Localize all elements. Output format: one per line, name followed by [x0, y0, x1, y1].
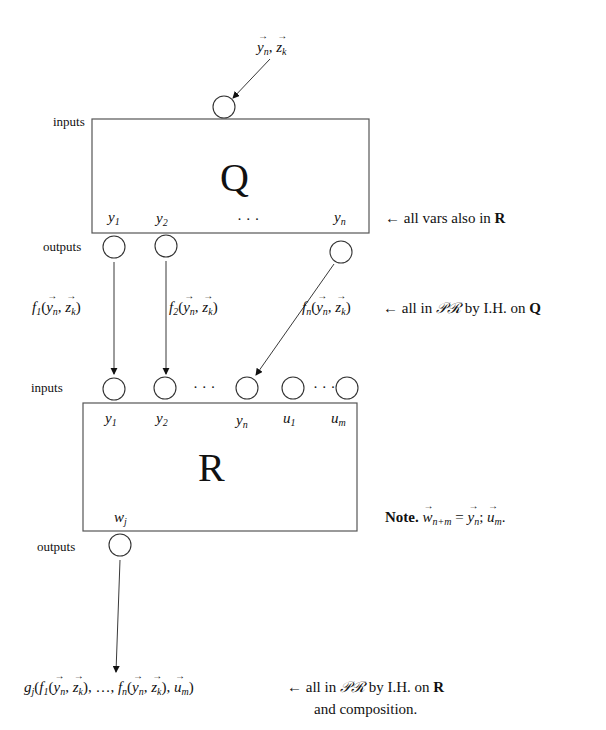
- var-g: g: [24, 679, 32, 695]
- fn-note-by-ih: by I.H. on: [465, 300, 526, 316]
- q-var-dots: · · ·: [237, 212, 260, 227]
- pr-class: 𝒫ℛ: [340, 678, 365, 696]
- q-note-text: all vars also in: [404, 210, 491, 226]
- q-inputs-label: inputs: [53, 115, 85, 128]
- r-var-u1: u1: [283, 411, 296, 428]
- var-y: y: [53, 680, 60, 695]
- sub-j: j: [124, 516, 127, 527]
- sub-1: 1: [112, 417, 117, 428]
- r-inputs-label: inputs: [31, 381, 63, 394]
- left-arrow-icon: ←: [287, 679, 302, 695]
- q-input-node: [213, 96, 235, 118]
- var-y: y: [316, 300, 323, 315]
- var-u: u: [487, 510, 495, 525]
- var-z: z: [151, 680, 157, 695]
- ellipsis: , …,: [88, 679, 118, 695]
- var-w: w: [114, 509, 124, 525]
- sub-n: n: [243, 419, 248, 430]
- q-output-node-y2: [155, 235, 177, 257]
- fn-note-bold-q: Q: [529, 300, 541, 316]
- r-output-node-wj: [109, 534, 131, 556]
- result-note-text: all in: [306, 679, 336, 695]
- sub-1: 1: [291, 417, 296, 428]
- r-input-node-y2: [154, 377, 176, 399]
- rparen: ): [346, 299, 351, 315]
- result-note-by-ih: by I.H. on: [369, 679, 430, 695]
- sub-k: k: [282, 46, 286, 57]
- rparen: ): [189, 679, 194, 695]
- rparen: ): [213, 299, 218, 315]
- sub-m: m: [495, 516, 502, 527]
- var-y: y: [156, 210, 163, 226]
- q-note-bold-r: R: [495, 210, 506, 226]
- r-input-node-yn: [236, 377, 258, 399]
- q-box-title: Q: [220, 158, 249, 198]
- r-input-dots-1: · · ·: [193, 380, 216, 395]
- var-y: y: [467, 510, 474, 525]
- comma: ,: [167, 679, 175, 695]
- var-y: y: [105, 410, 112, 426]
- r-input-dots-2: · · ·: [313, 380, 336, 395]
- r-input-node-um: [336, 377, 358, 399]
- sub-1: 1: [115, 216, 120, 227]
- var-u: u: [331, 410, 339, 426]
- fn-note: ← all in 𝒫ℛ by I.H. on Q: [383, 301, 541, 316]
- diagram-canvas: [0, 0, 606, 730]
- var-y: y: [46, 300, 53, 315]
- var-z: z: [202, 300, 208, 315]
- var-z: z: [335, 300, 341, 315]
- r-box-title: R: [198, 448, 225, 488]
- left-arrow-icon: ←: [383, 300, 398, 316]
- equals: =: [452, 509, 468, 525]
- r-var-yn: yn: [236, 413, 248, 430]
- var-y: y: [236, 412, 243, 428]
- edge-fn: [256, 264, 334, 375]
- fn-note-text: all in: [402, 300, 432, 316]
- var-y: y: [132, 680, 139, 695]
- var-u: u: [283, 410, 291, 426]
- var-z: z: [276, 40, 282, 55]
- rparen: ): [76, 299, 81, 315]
- result-note-line2: and composition.: [314, 702, 417, 717]
- var-w: w: [423, 510, 433, 525]
- sub-n: n: [341, 216, 346, 227]
- var-y: y: [334, 209, 341, 225]
- var-y: y: [156, 410, 163, 426]
- var-z: z: [65, 300, 71, 315]
- q-outputs-label: outputs: [43, 240, 81, 253]
- top-input-label: yn, zk: [257, 40, 286, 57]
- sub-m: m: [339, 417, 346, 428]
- r-var-um: um: [331, 411, 346, 428]
- edge-f1-label: f1(yn, zk): [32, 300, 81, 317]
- pr-class: 𝒫ℛ: [436, 299, 461, 317]
- sub-2: 2: [163, 217, 168, 228]
- q-var-y2: y2: [156, 211, 168, 228]
- comma: ,: [65, 679, 73, 695]
- r-var-wj: wj: [114, 510, 127, 527]
- semicolon: ;: [479, 509, 487, 525]
- r-outputs-label: outputs: [37, 540, 75, 553]
- period: .: [502, 509, 506, 525]
- sub-2: 2: [163, 417, 168, 428]
- edge-gj: [116, 560, 120, 672]
- r-note: Note. wn+m = yn; um.: [385, 510, 506, 527]
- r-input-node-y1: [103, 378, 125, 400]
- var-u: u: [174, 680, 182, 695]
- var-y: y: [108, 209, 115, 225]
- edge-fn-label: fn(yn, zk): [302, 300, 351, 317]
- top-input-arrow: [233, 59, 270, 98]
- q-var-y1: y1: [108, 210, 120, 227]
- q-output-node-y1: [103, 236, 125, 258]
- result-note-line1: ← all in 𝒫ℛ by I.H. on R: [287, 680, 444, 695]
- q-var-yn: yn: [334, 210, 346, 227]
- result-note-bold-r: R: [433, 679, 444, 695]
- var-y: y: [183, 300, 190, 315]
- var-y: y: [257, 40, 264, 55]
- q-output-node-yn: [330, 241, 352, 263]
- r-input-node-u1: [282, 377, 304, 399]
- note-word: Note.: [385, 509, 419, 525]
- sub-nm: n+m: [433, 516, 452, 527]
- var-z: z: [73, 680, 79, 695]
- r-var-y2: y2: [156, 411, 168, 428]
- left-arrow-icon: ←: [385, 210, 400, 226]
